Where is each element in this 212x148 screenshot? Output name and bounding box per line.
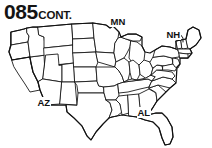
state-north-dakota [72, 23, 94, 39]
state-label-al: AL [137, 107, 151, 118]
title-number: 085 [4, 1, 38, 22]
state-label-nh: NH [166, 29, 181, 40]
state-nebraska [73, 52, 98, 67]
state-kansas [74, 67, 97, 82]
state-new-mexico [60, 82, 77, 105]
state-label-az: AZ [37, 97, 51, 108]
state-arkansas [104, 84, 119, 100]
state-label-mn: MN [110, 16, 126, 27]
page-title: 085 CONT. [4, 1, 75, 22]
state-iowa [96, 52, 116, 67]
state-connecticut [179, 53, 188, 58]
state-south-dakota [73, 38, 96, 53]
map-screenshot: 085 CONT. MN NH AZ AL [0, 0, 212, 148]
title-suffix: CONT. [38, 10, 72, 22]
